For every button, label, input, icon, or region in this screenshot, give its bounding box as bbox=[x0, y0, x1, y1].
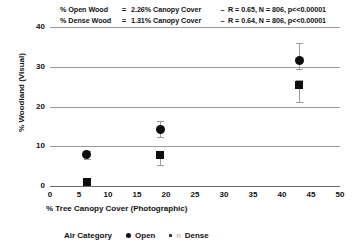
error-bar-cap bbox=[157, 137, 164, 138]
x-tick-label-10: 10 bbox=[96, 190, 120, 199]
dense-equation-lhs: % Dense Wood bbox=[60, 16, 122, 27]
x-axis-line bbox=[50, 186, 340, 187]
x-tick-label-35: 35 bbox=[241, 190, 265, 199]
error-bar-cap bbox=[296, 102, 303, 103]
open-equation-equals: = bbox=[122, 5, 131, 16]
y-axis-title: % Woodland (Visual) bbox=[17, 28, 26, 158]
legend-label-open: Open bbox=[135, 231, 155, 240]
x-tick-label-40: 40 bbox=[270, 190, 294, 199]
legend-entry-dense[interactable]: n Dense bbox=[168, 231, 208, 240]
dense-equation-stats: R = 0.64, N = 806, p<<0.00001 bbox=[228, 16, 326, 27]
y-tick-label-40: 40 bbox=[23, 22, 45, 31]
error-bar-cap bbox=[296, 43, 303, 44]
open-equation-rhs: 2.26% Canopy Cover bbox=[131, 5, 217, 16]
legend-label-dense: Dense bbox=[185, 231, 209, 240]
error-bar-cap bbox=[296, 69, 303, 70]
legend-ghost-glyph: n bbox=[176, 232, 180, 239]
data-point-dense[interactable] bbox=[156, 151, 164, 159]
error-bar-cap bbox=[157, 165, 164, 166]
error-bar-cap bbox=[157, 121, 164, 122]
data-point-open[interactable] bbox=[295, 56, 304, 65]
chart-legend: Air Category Open n Dense bbox=[64, 228, 209, 242]
regression-annotations: % Open Wood=2.26% Canopy Cover–R = 0.65,… bbox=[60, 5, 356, 26]
open-equation-lhs: % Open Wood bbox=[60, 5, 122, 16]
data-point-dense[interactable] bbox=[83, 178, 91, 186]
x-tick-label-0: 0 bbox=[38, 190, 62, 199]
gridline-y-30 bbox=[50, 67, 340, 68]
x-tick-label-15: 15 bbox=[125, 190, 149, 199]
open-equation-stats: R = 0.65, N = 806, p<<0.00001 bbox=[228, 5, 326, 16]
square-marker-icon bbox=[169, 234, 172, 237]
x-tick-label-20: 20 bbox=[154, 190, 178, 199]
x-tick-label-30: 30 bbox=[212, 190, 236, 199]
y-tick-label-10: 10 bbox=[23, 141, 45, 150]
y-tick-label-20: 20 bbox=[23, 102, 45, 111]
regression-line-dense: % Dense Wood=1.31% Canopy Cover–R = 0.64… bbox=[60, 16, 356, 27]
x-tick-label-25: 25 bbox=[183, 190, 207, 199]
gridline-y-10 bbox=[50, 146, 340, 147]
y-tick-label-0: 0 bbox=[23, 181, 45, 190]
x-axis-title: % Tree Canopy Cover (Photographic) bbox=[46, 204, 187, 213]
legend-entry-open[interactable]: Open bbox=[126, 231, 155, 240]
regression-line-open: % Open Wood=2.26% Canopy Cover–R = 0.65,… bbox=[60, 5, 356, 16]
data-point-dense[interactable] bbox=[295, 81, 303, 89]
circle-marker-icon bbox=[126, 233, 131, 238]
y-tick-label-30: 30 bbox=[23, 62, 45, 71]
dense-equation-equals: = bbox=[122, 16, 131, 27]
open-equation-dash: – bbox=[217, 5, 228, 16]
chart-figure: % Open Wood=2.26% Canopy Cover–R = 0.65,… bbox=[0, 0, 360, 251]
x-tick-label-45: 45 bbox=[299, 190, 323, 199]
data-point-open[interactable] bbox=[156, 125, 165, 134]
gridline-y-40 bbox=[50, 27, 340, 28]
dense-equation-dash: – bbox=[217, 16, 228, 27]
x-tick-label-5: 5 bbox=[67, 190, 91, 199]
legend-title: Air Category bbox=[64, 231, 112, 240]
dense-equation-rhs: 1.31% Canopy Cover bbox=[131, 16, 217, 27]
plot-area bbox=[50, 27, 340, 186]
x-tick-label-50: 50 bbox=[328, 190, 352, 199]
gridline-y-20 bbox=[50, 107, 340, 108]
